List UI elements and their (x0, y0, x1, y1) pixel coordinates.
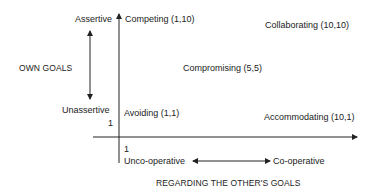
point-competing: Competing (1,10) (125, 14, 195, 24)
y-origin-tick: 1 (108, 118, 113, 128)
co-operative-label: Co-operative (273, 156, 325, 166)
unassertive-label: Unassertive (62, 105, 110, 115)
x-origin-tick: 1 (124, 144, 129, 154)
others-goals-title: REGARDING THE OTHER'S GOALS (156, 178, 300, 188)
own-goals-title: OWN GOALS (19, 63, 72, 73)
assertive-label: Assertive (75, 14, 112, 24)
unco-operative-label: Unco-operative (124, 156, 185, 166)
point-avoiding: Avoiding (1,1) (124, 108, 179, 118)
point-accommodating: Accommodating (10,1) (264, 112, 355, 122)
point-compromising: Compromising (5,5) (183, 63, 262, 73)
point-collaborating: Collaborating (10,10) (265, 20, 349, 30)
